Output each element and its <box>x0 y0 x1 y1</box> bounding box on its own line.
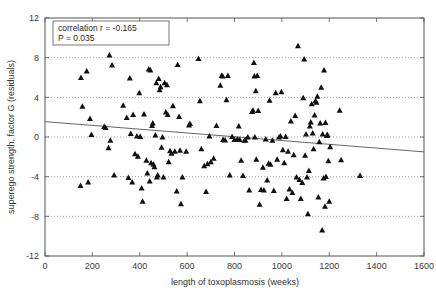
y-tick-label: 0 <box>34 132 39 142</box>
x-tick-label: 1600 <box>414 261 434 271</box>
y-tick-label: 12 <box>29 13 39 23</box>
x-tick-label: 1200 <box>319 261 339 271</box>
x-tick-label: 800 <box>227 261 242 271</box>
x-tick-label: 1000 <box>272 261 292 271</box>
correlation-text: correlation r = -0.165 <box>58 23 137 33</box>
x-tick-label: 200 <box>85 261 100 271</box>
x-tick-label: 0 <box>42 261 47 271</box>
pvalue-text: P = 0.035 <box>58 33 95 43</box>
y-axis-label: superego strength, factor G (residuals) <box>6 60 16 214</box>
x-axis-label: length of toxoplasmosis (weeks) <box>171 277 299 287</box>
x-tick-label: 600 <box>180 261 195 271</box>
y-tick-label: 8 <box>34 53 39 63</box>
stats-annotation-box: correlation r = -0.165 P = 0.035 <box>53 21 169 45</box>
y-tick-label: -12 <box>26 251 39 261</box>
y-tick-label: -8 <box>31 212 39 222</box>
x-tick-label: 1400 <box>367 261 387 271</box>
y-tick-label: -4 <box>31 172 39 182</box>
y-tick-label: 4 <box>34 93 39 103</box>
x-tick-label: 400 <box>132 261 147 271</box>
chart-canvas: 02004006008001000120014001600 -12-8-4048… <box>0 0 436 294</box>
scatter-plot-figure: 02004006008001000120014001600 -12-8-4048… <box>0 0 436 294</box>
